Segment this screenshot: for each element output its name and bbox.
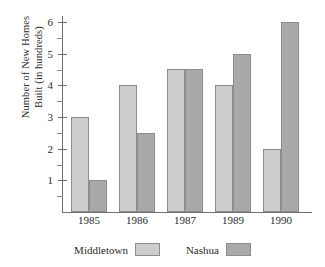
y-axis-title-line-2: Built (in hundreds) bbox=[33, 26, 46, 108]
y-tick-label-6: 6 bbox=[13, 17, 53, 28]
y-tick-minor-1-5 bbox=[57, 165, 63, 166]
y-axis-title-line-1: Number of New Homes bbox=[20, 16, 33, 119]
bar-middletown-1989 bbox=[215, 85, 233, 212]
y-tick-minor-2-5 bbox=[57, 133, 63, 134]
y-tick-major-2 bbox=[58, 149, 67, 150]
legend-entry-nashua: Nashua bbox=[186, 243, 251, 256]
y-tick-major-3 bbox=[58, 117, 67, 118]
bar-nashua-1985 bbox=[89, 180, 107, 212]
y-tick-label-3: 3 bbox=[13, 112, 53, 123]
y-tick-major-5 bbox=[58, 54, 67, 55]
bar-nashua-1987 bbox=[185, 69, 203, 212]
legend-entry-middletown: Middletown bbox=[74, 243, 160, 256]
y-tick-major-4 bbox=[58, 85, 67, 86]
bar-middletown-1990 bbox=[263, 149, 281, 212]
x-tick-label-1985: 1985 bbox=[65, 215, 113, 226]
legend-label-middletown: Middletown bbox=[74, 244, 128, 256]
bar-middletown-1986 bbox=[119, 85, 137, 212]
x-tick-label-1990: 1990 bbox=[257, 215, 305, 226]
y-tick-minor-5-5 bbox=[57, 38, 63, 39]
y-tick-minor-4-5 bbox=[57, 70, 63, 71]
y-tick-label-5: 5 bbox=[13, 49, 53, 60]
chart-legend: Middletown Nashua bbox=[0, 243, 325, 256]
bar-nashua-1986 bbox=[137, 133, 155, 212]
x-tick-label-1987: 1987 bbox=[161, 215, 209, 226]
legend-label-nashua: Nashua bbox=[186, 244, 219, 256]
y-axis-line bbox=[62, 16, 63, 213]
y-tick-label-4: 4 bbox=[13, 80, 53, 91]
y-tick-minor-3-5 bbox=[57, 101, 63, 102]
bar-nashua-1989 bbox=[233, 54, 251, 212]
y-tick-major-6 bbox=[58, 22, 67, 23]
legend-swatch-middletown bbox=[135, 243, 160, 256]
bar-middletown-1987 bbox=[167, 69, 185, 212]
y-tick-label-2: 2 bbox=[13, 144, 53, 155]
y-tick-label-1: 1 bbox=[13, 175, 53, 186]
x-tick-label-1989: 1989 bbox=[209, 215, 257, 226]
bar-nashua-1990 bbox=[281, 22, 299, 212]
bar-middletown-1985 bbox=[71, 117, 89, 212]
x-tick-label-1986: 1986 bbox=[113, 215, 161, 226]
bar-chart: Number of New Homes Built (in hundreds) … bbox=[0, 0, 325, 267]
y-tick-minor-0-5 bbox=[57, 196, 63, 197]
y-tick-major-1 bbox=[58, 180, 67, 181]
legend-swatch-nashua bbox=[226, 243, 251, 256]
x-axis-line bbox=[62, 212, 312, 213]
